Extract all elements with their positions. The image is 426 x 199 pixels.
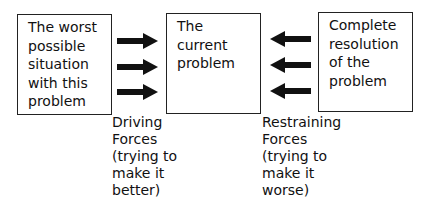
- restraining-arrow-icon: [270, 31, 312, 47]
- label-line: Forces: [262, 131, 341, 148]
- driving-forces-label: Driving Forces (trying to make it better…: [112, 114, 177, 199]
- current-problem-box: The current problem: [166, 13, 261, 114]
- label-line: Driving: [112, 114, 177, 131]
- label-line: Forces: [112, 131, 177, 148]
- label-line: Restraining: [262, 114, 341, 131]
- label-line: better): [112, 182, 177, 199]
- restraining-arrow-icon: [270, 83, 312, 99]
- label-line: make it: [262, 165, 341, 182]
- box-text-line: problem: [177, 54, 260, 73]
- driving-arrow-icon: [117, 33, 159, 49]
- box-text-line: Complete: [329, 16, 412, 35]
- label-line: worse): [262, 182, 341, 199]
- driving-arrow-icon: [117, 59, 159, 75]
- worst-situation-box: The worst possible situation with this p…: [17, 14, 112, 115]
- box-text-line: of the: [329, 53, 412, 72]
- label-line: (trying to: [262, 148, 341, 165]
- box-text-line: possible: [28, 37, 111, 56]
- box-text-line: problem: [329, 72, 412, 91]
- label-line: make it: [112, 165, 177, 182]
- box-text-line: The: [177, 17, 260, 36]
- box-text-line: with this: [28, 74, 111, 93]
- box-text-line: The worst: [28, 18, 111, 37]
- restraining-arrow-icon: [270, 57, 312, 73]
- box-text-line: situation: [28, 55, 111, 74]
- complete-resolution-box: Complete resolution of the problem: [318, 12, 413, 112]
- box-text-line: current: [177, 36, 260, 55]
- driving-arrow-icon: [117, 84, 159, 100]
- restraining-forces-label: Restraining Forces (trying to make it wo…: [262, 114, 341, 199]
- box-text-line: resolution: [329, 35, 412, 54]
- box-text-line: problem: [28, 92, 111, 111]
- label-line: (trying to: [112, 148, 177, 165]
